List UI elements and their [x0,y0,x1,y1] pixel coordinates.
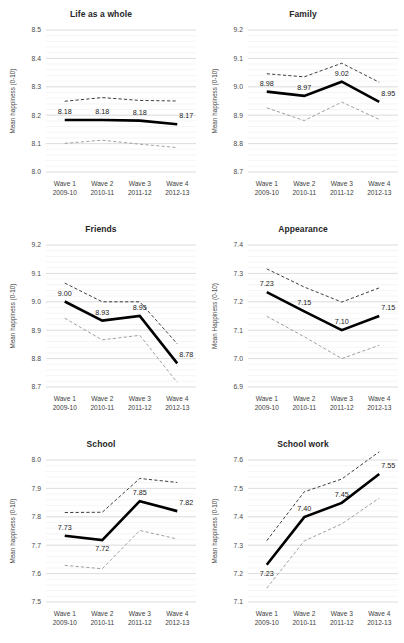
x-tick-label-wave: Wave 4 [368,610,390,617]
x-tick-label-wave: Wave 2 [293,180,315,187]
x-tick-label-wave: Wave 4 [368,395,390,402]
panel-plot-svg: 8.08.18.28.38.48.5Mean happiness (0-10)8… [0,0,202,215]
x-tick-label-wave: Wave 4 [166,610,188,617]
x-tick-label-wave: Wave 1 [54,180,76,187]
y-tick-label: 7.2 [234,298,244,305]
data-value-label: 8.98 [260,79,274,88]
x-tick-label-year: 2012-13 [165,619,190,626]
y-tick-label: 8.8 [32,355,42,362]
x-tick-label-year: 2012-13 [165,189,190,196]
x-tick-label-year: 2011-12 [128,189,152,196]
data-value-label: 7.23 [260,569,274,578]
y-tick-label: 8.2 [32,112,42,119]
x-tick-label-wave: Wave 4 [166,180,188,187]
x-tick-label-wave: Wave 1 [54,610,76,617]
chart-panel-appearance: Appearance6.97.07.17.27.37.4Mean Happine… [202,215,404,430]
y-tick-label: 7.8 [32,513,42,520]
x-tick-label-wave: Wave 1 [256,180,278,187]
y-axis-title: Mean happiness (0-10) [211,499,219,564]
x-tick-label-wave: Wave 2 [293,395,315,402]
x-tick-label-year: 2009-10 [255,189,280,196]
chart-panel-family: Family8.78.88.99.09.19.2Mean happiness (… [202,0,404,215]
major-gridlines: 8.78.88.99.09.19.2 [32,241,196,390]
y-tick-label: 7.9 [32,485,42,492]
y-tick-label: 8.9 [234,112,244,119]
x-tick-label-year: 2010-11 [90,619,114,626]
y-tick-label: 7.3 [234,270,244,277]
y-tick-label: 8.0 [32,456,42,463]
data-value-label: 7.23 [260,279,274,288]
series-line-lower-95-ci [267,102,380,120]
data-value-label: 7.85 [133,488,147,497]
x-tick-label-year: 2009-10 [53,189,78,196]
y-axis-title: Mean Happiness (0-10) [211,283,219,349]
y-tick-label: 9.1 [32,270,42,277]
y-axis-title: Mean happiness (0-10) [211,69,219,134]
y-tick-label: 8.4 [32,55,42,62]
major-gridlines: 8.78.88.99.09.19.2 [234,26,398,175]
y-tick-label: 7.4 [234,241,244,248]
data-value-label: 7.55 [381,461,395,470]
minor-gridlines [248,460,398,602]
data-value-label: 7.15 [381,303,395,312]
panel-plot-svg: 8.78.88.99.09.19.2Mean happiness (0-10)8… [202,0,404,215]
data-value-label: 7.15 [297,298,311,307]
major-gridlines: 8.08.18.28.38.48.5 [32,26,196,175]
x-tick-label-wave: Wave 1 [256,610,278,617]
chart-panel-grid: Life as a whole8.08.18.28.38.48.5Mean ha… [0,0,404,643]
data-value-label: 8.95 [381,89,395,98]
panel-plot-svg: 6.97.07.17.27.37.4Mean Happiness (0-10)7… [202,215,404,430]
y-tick-label: 7.6 [234,456,244,463]
series-line-mean [65,302,178,364]
data-value-label: 7.40 [297,504,311,513]
series-line-lower-95-ci [65,318,178,382]
x-tick-label-wave: Wave 4 [166,395,188,402]
x-tick-label-year: 2012-13 [367,619,392,626]
y-tick-label: 9.0 [234,83,244,90]
x-tick-label-year: 2009-10 [53,619,78,626]
data-value-label: 7.72 [95,544,109,553]
y-tick-label: 9.2 [234,26,244,33]
chart-panel-life-as-a-whole: Life as a whole8.08.18.28.38.48.5Mean ha… [0,0,202,215]
minor-gridlines [46,245,196,387]
y-tick-label: 6.9 [234,383,244,390]
data-value-label: 9.00 [58,289,72,298]
data-value-label: 8.18 [95,107,109,116]
series-line-upper-95-ci [65,283,178,344]
y-tick-label: 8.9 [32,327,42,334]
data-value-label: 8.95 [133,303,147,312]
x-tick-label-year: 2009-10 [255,404,280,411]
x-tick-label-year: 2010-11 [292,404,316,411]
x-tick-label-year: 2009-10 [255,619,280,626]
y-tick-label: 7.5 [32,598,42,605]
x-tick-label-wave: Wave 3 [129,395,151,402]
major-gridlines: 7.57.67.77.87.98.0 [32,456,196,605]
y-tick-label: 8.1 [32,140,42,147]
y-tick-label: 7.3 [234,542,244,549]
x-tick-label-wave: Wave 2 [293,610,315,617]
x-tick-label-wave: Wave 3 [331,180,353,187]
series-line-upper-95-ci [267,452,380,541]
y-axis-title: Mean happiness (0-10) [9,499,17,564]
x-tick-label-year: 2010-11 [292,189,316,196]
data-value-label: 8.18 [133,108,147,117]
data-value-label: 7.82 [179,498,193,507]
y-tick-label: 8.3 [32,83,42,90]
y-tick-label: 9.2 [32,241,42,248]
series-line-mean [65,501,178,540]
panel-plot-svg: 7.57.67.77.87.98.0Mean happiness (0-10)7… [0,430,202,643]
x-tick-label-year: 2010-11 [90,404,114,411]
y-tick-label: 8.0 [32,168,42,175]
data-value-label: 8.93 [95,308,109,317]
x-tick-label-wave: Wave 1 [256,395,278,402]
x-tick-label-year: 2011-12 [128,404,152,411]
panel-plot-svg: 8.78.88.99.09.19.2Mean happiness (0-10)9… [0,215,202,430]
x-tick-label-wave: Wave 1 [54,395,76,402]
y-tick-label: 7.7 [32,542,42,549]
x-tick-label-wave: Wave 2 [91,395,113,402]
minor-gridlines [248,245,398,387]
x-tick-label-wave: Wave 3 [331,610,353,617]
y-tick-label: 9.0 [32,298,42,305]
x-tick-label-year: 2011-12 [330,619,354,626]
x-tick-label-wave: Wave 3 [129,180,151,187]
